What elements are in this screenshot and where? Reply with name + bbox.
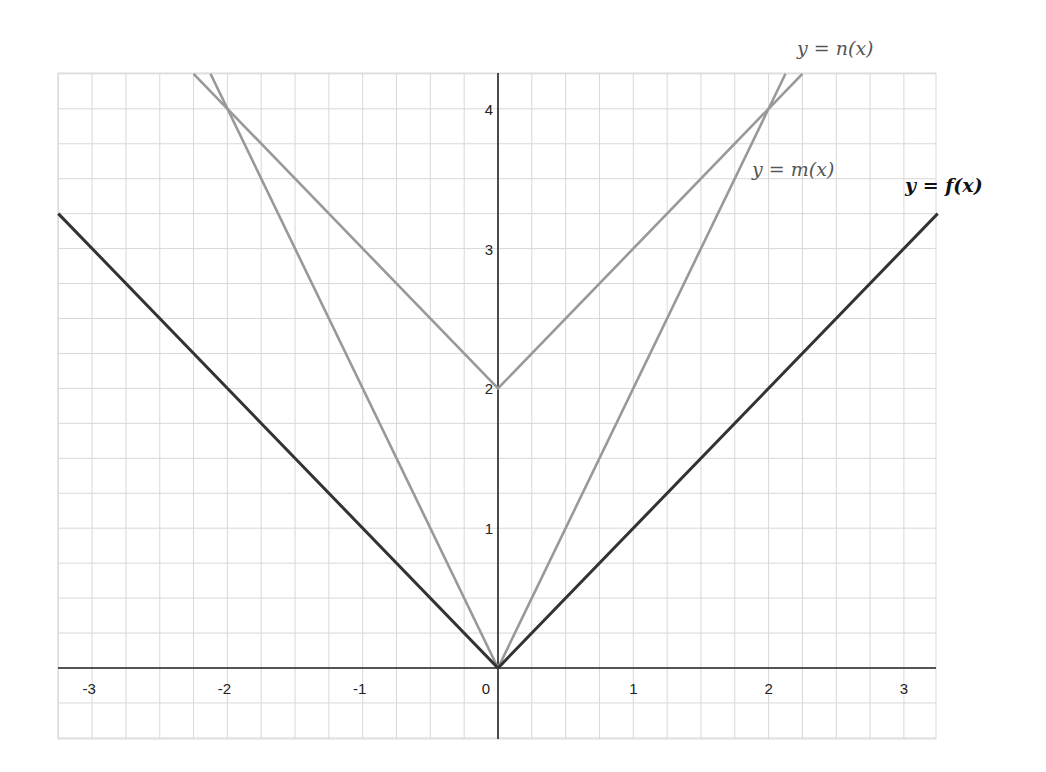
x-tick-label: -1 [353, 680, 366, 697]
x-tick-label: 0 [482, 680, 490, 697]
y-tick-label: 1 [485, 520, 493, 537]
tick-labels: -3-2-101231234 [82, 101, 908, 697]
y-tick-label: 2 [485, 380, 493, 397]
function-graph: -3-2-101231234 y = n(x) y = m(x) y = f(x… [0, 0, 1046, 772]
x-tick-label: -3 [82, 680, 95, 697]
x-tick-label: 3 [900, 680, 908, 697]
x-tick-label: 1 [629, 680, 637, 697]
y-tick-label: 3 [485, 241, 493, 258]
label-n-of-x: y = n(x) [796, 37, 874, 59]
label-m-of-x: y = m(x) [751, 158, 834, 180]
x-tick-label: -2 [218, 680, 231, 697]
y-tick-label: 4 [485, 101, 493, 118]
label-f-of-x: y = f(x) [904, 174, 983, 196]
x-tick-label: 2 [764, 680, 772, 697]
curve-labels: y = n(x) y = m(x) y = f(x) [751, 37, 983, 196]
